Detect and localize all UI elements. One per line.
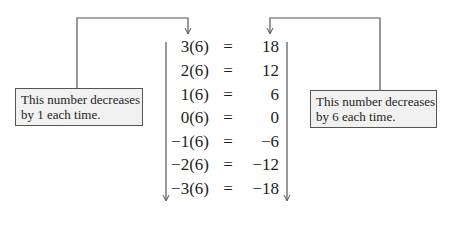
equation-lhs: 3(6)	[181, 36, 209, 58]
equation-row: 2(6) = 12	[0, 60, 451, 82]
equation-row: 0(6) = 0	[0, 107, 451, 129]
equals-sign: =	[221, 154, 235, 176]
equals-sign: =	[221, 36, 235, 58]
equation-lhs: −1(6)	[171, 131, 209, 153]
equation-rhs: 0	[271, 107, 280, 129]
equation-lhs: −2(6)	[171, 154, 209, 176]
equals-sign: =	[221, 107, 235, 129]
equation-rhs: −6	[261, 131, 279, 153]
equals-sign: =	[221, 60, 235, 82]
equation-lhs: 0(6)	[181, 107, 209, 129]
equation-lhs: 1(6)	[181, 84, 209, 106]
equation-rhs: −12	[252, 154, 279, 176]
equation-row: −1(6) = −6	[0, 131, 451, 153]
equation-rhs: 6	[271, 84, 280, 106]
equation-row: −3(6) = −18	[0, 178, 451, 200]
equation-lhs: 2(6)	[181, 60, 209, 82]
equation-rhs: −18	[252, 178, 279, 200]
equals-sign: =	[221, 178, 235, 200]
equation-row: −2(6) = −12	[0, 154, 451, 176]
equation-rhs: 12	[262, 60, 279, 82]
equation-lhs: −3(6)	[171, 178, 209, 200]
equals-sign: =	[221, 131, 235, 153]
equation-row: 1(6) = 6	[0, 84, 451, 106]
equation-rhs: 18	[262, 36, 279, 58]
equals-sign: =	[221, 84, 235, 106]
equation-row: 3(6) = 18	[0, 36, 451, 58]
